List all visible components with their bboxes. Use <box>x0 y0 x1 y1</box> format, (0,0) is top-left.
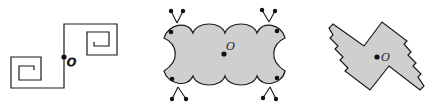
staircase-shape-figure: O <box>329 22 424 90</box>
corner-dot <box>170 77 175 82</box>
antenna-top-right <box>260 8 277 22</box>
center-label: O <box>67 56 76 69</box>
spiral-path-figure: O <box>11 24 117 88</box>
center-label: O <box>381 51 390 64</box>
antenna-bottom-right <box>261 87 278 101</box>
center-point <box>61 54 66 59</box>
symmetry-figures: O <box>0 0 435 108</box>
lobed-shape-figure: O <box>164 8 285 101</box>
center-label: O <box>226 40 235 53</box>
corner-dot <box>275 76 280 81</box>
center-point <box>374 54 379 59</box>
figure-canvas: O <box>0 0 435 108</box>
antenna-top-left <box>169 9 185 23</box>
corner-dot <box>275 29 280 34</box>
antenna-bottom-left <box>170 87 188 101</box>
corner-dot <box>169 30 174 35</box>
